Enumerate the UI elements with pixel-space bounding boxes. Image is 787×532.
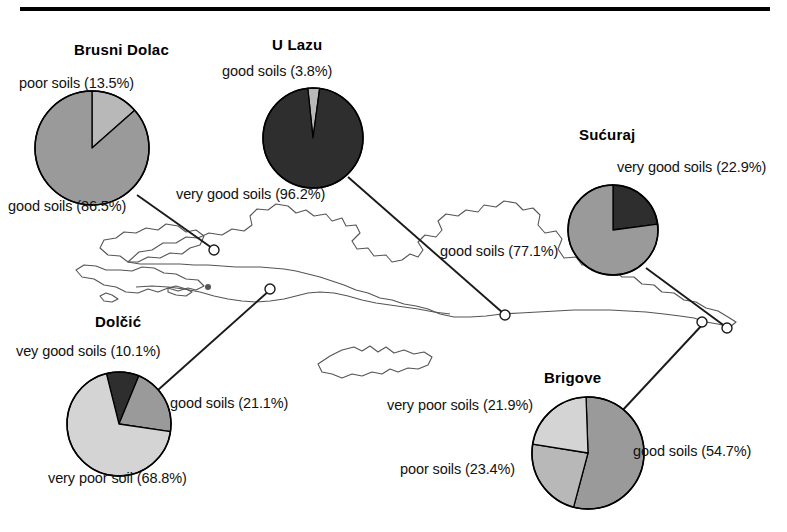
label-sucuraj-good: good soils (77.1%)	[440, 243, 558, 259]
island-dot-a	[168, 286, 192, 296]
island-dot-b	[205, 284, 211, 290]
leader-line-sucuraj	[646, 268, 726, 327]
map-marker-brusni-dolac	[209, 245, 219, 255]
site-title-sucuraj: Sućuraj	[579, 126, 635, 143]
site-title-brigove: Brigove	[544, 369, 601, 386]
leader-line-dolcic	[158, 290, 270, 390]
figure-canvas: Brusni Dolac U Lazu Sućuraj Dolčić Brigo…	[0, 0, 787, 532]
label-brigove-poor: poor soils (23.4%)	[400, 461, 515, 477]
island-south	[318, 346, 432, 378]
site-title-brusni-dolac: Brusni Dolac	[74, 41, 169, 58]
label-u-lazu-very-good: very good soils (96.2%)	[176, 186, 325, 202]
pie-chart-u-lazu	[263, 88, 363, 188]
site-title-u-lazu: U Lazu	[272, 36, 322, 53]
map-marker-sucuraj	[722, 323, 732, 333]
label-u-lazu-good: good soils (3.8%)	[222, 63, 332, 79]
site-title-dolcic: Dolčić	[95, 313, 141, 330]
label-sucuraj-very-good: very good soils (22.9%)	[617, 159, 766, 175]
map-marker-dolcic	[265, 284, 275, 294]
island-small-west	[100, 293, 118, 302]
pie-chart-brigove	[532, 397, 644, 509]
label-brigove-good: good soils (54.7%)	[633, 443, 751, 459]
label-brusni-dolac-good: good soils (86.5%)	[8, 198, 126, 214]
leader-line-brusni-dolac	[137, 195, 212, 248]
pie-charts	[35, 88, 658, 509]
pie-slice-brigove-very-poor-soils	[533, 397, 588, 453]
label-brusni-dolac-poor: poor soils (13.5%)	[19, 75, 134, 91]
pie-chart-dol-i-	[67, 372, 171, 476]
map-marker-u-lazu	[500, 310, 510, 320]
island-northwest	[100, 224, 204, 262]
map-marker-brigove	[697, 317, 707, 327]
pie-chart-brusni-dolac	[35, 91, 149, 205]
leader-line-brigove	[621, 324, 703, 412]
label-dolcic-good: good soils (21.1%)	[170, 395, 288, 411]
island-main-south-coast	[136, 286, 450, 314]
pie-chart-su-uraj	[568, 185, 658, 275]
label-brigove-very-poor: very poor soils (21.9%)	[387, 397, 533, 413]
label-dolcic-very-poor: very poor soil (68.8%)	[48, 470, 187, 486]
label-dolcic-very-good: vey good soils (10.1%)	[16, 343, 161, 359]
